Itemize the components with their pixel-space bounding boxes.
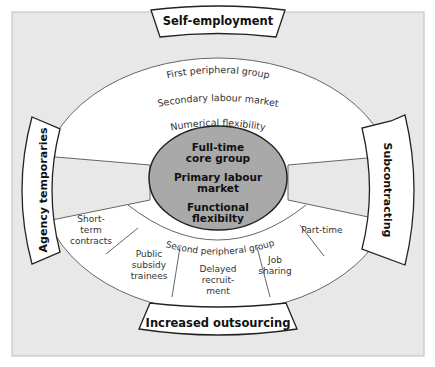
svg-text:Short-: Short-	[77, 214, 104, 224]
increased-outsourcing-box: Increased outsourcing	[139, 303, 297, 335]
svg-text:Delayed: Delayed	[199, 264, 236, 274]
core-line-2: core group	[186, 152, 251, 164]
svg-text:ment: ment	[206, 286, 230, 296]
svg-text:term: term	[80, 225, 101, 235]
svg-text:contracts: contracts	[70, 236, 112, 246]
svg-text:trainees: trainees	[131, 271, 168, 281]
core-line-6: flexibilty	[192, 212, 244, 224]
self-employment-box: Self-employment	[151, 6, 285, 37]
flexible-firm-diagram: Self-employment First peripheral group S…	[0, 0, 435, 367]
agency-temporaries-label: Agency temporaries	[37, 127, 50, 252]
svg-text:Public: Public	[136, 249, 163, 259]
svg-text:Job: Job	[267, 255, 282, 265]
subcontracting-box: Subcontracting	[362, 115, 414, 265]
svg-text:sharing: sharing	[258, 266, 292, 276]
svg-text:subsidy: subsidy	[132, 260, 167, 270]
increased-outsourcing-label: Increased outsourcing	[146, 316, 291, 330]
svg-text:recruit-: recruit-	[202, 275, 235, 285]
svg-text:Part-time: Part-time	[301, 225, 343, 235]
core-line-4: market	[197, 182, 239, 194]
segment-public-subsidy-trainees: Public subsidy trainees	[131, 249, 168, 281]
segment-part-time: Part-time	[301, 225, 343, 235]
self-employment-label: Self-employment	[163, 14, 274, 28]
subcontracting-label: Subcontracting	[381, 143, 394, 238]
